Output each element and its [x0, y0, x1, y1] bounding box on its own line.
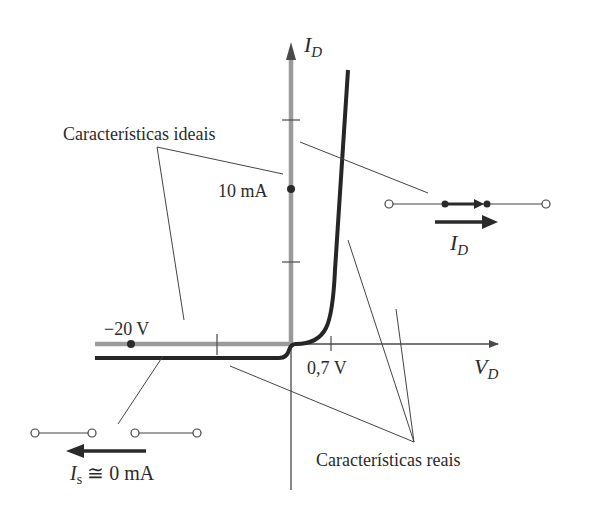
diode-characteristics-diagram: ID Características ideais 10 mA −20 V 0,… [0, 0, 591, 510]
leader-ideal-1 [157, 147, 283, 174]
ideal-characteristics-label: Características ideais [63, 124, 215, 144]
real-characteristics-label: Características reais [316, 450, 460, 470]
leader-real-2 [348, 240, 414, 442]
leader-reverse [118, 356, 163, 424]
reverse-current-arrow-icon [66, 444, 146, 458]
forward-current-arrow-icon [435, 215, 498, 229]
leader-ideal-2 [157, 147, 184, 320]
y-axis-arrowhead [286, 42, 296, 60]
current-10ma-label: 10 mA [218, 181, 268, 201]
voltage-0-7-label: 0,7 V [307, 358, 347, 378]
reverse-current-label: Is ≅ 0 mA [69, 462, 155, 487]
marker-neg20v [127, 340, 135, 348]
open-switch-icon [31, 429, 201, 437]
voltage-neg20-label: −20 V [104, 319, 149, 339]
y-axis-label: ID [303, 32, 322, 60]
leader-ideal-3 [300, 142, 428, 193]
diagram-canvas: ID Características ideais 10 mA −20 V 0,… [0, 0, 591, 510]
real-curve [95, 70, 348, 358]
forward-current-label: ID [449, 230, 468, 258]
closed-switch-icon [385, 199, 550, 209]
x-axis-label: VD [474, 354, 498, 382]
leader-real-3 [396, 309, 414, 442]
marker-10ma [287, 185, 295, 193]
